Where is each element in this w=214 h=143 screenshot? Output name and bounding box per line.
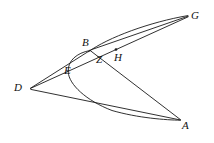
vertex-label-g: G	[191, 10, 199, 21]
line-d-e-z-h-g	[31, 17, 189, 89]
vertex-label-h: H	[114, 52, 122, 63]
geometry-figure: G B H Z E D A	[0, 0, 214, 143]
vertex-label-a: A	[182, 120, 189, 131]
line-d-a	[31, 89, 181, 120]
vertex-label-z: Z	[96, 54, 102, 65]
vertex-label-e: E	[64, 65, 71, 76]
line-b-z-a	[90, 50, 180, 119]
vertex-label-d: D	[14, 82, 22, 93]
arc-b-e-a	[68, 51, 180, 121]
vertex-label-b: B	[82, 37, 89, 48]
